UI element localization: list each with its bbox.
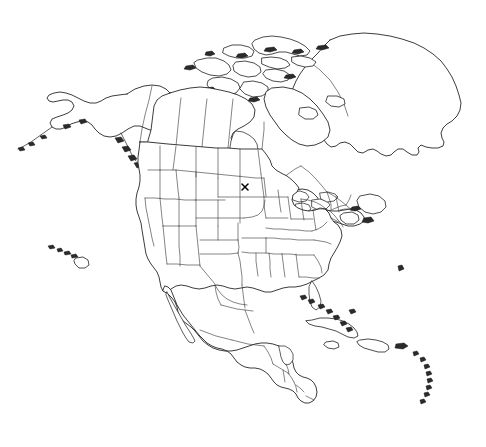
north-america-map [0, 0, 486, 447]
map-canvas [0, 0, 486, 447]
